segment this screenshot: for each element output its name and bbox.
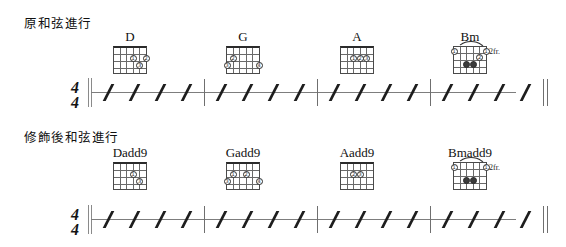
- chord-dot: 2: [230, 55, 237, 62]
- fret-position-label-bm: 2fr.: [489, 47, 500, 56]
- chord-dot: [470, 177, 477, 184]
- system-embellished: 修飾後和弦進行 Dadd9 1 3 Gadd9 1 2 3: [0, 124, 566, 247]
- chord-dot: 1: [230, 171, 237, 178]
- chord-dot: 3: [224, 62, 231, 69]
- chord-dot: 3: [224, 178, 231, 185]
- staff-original: 4 4: [0, 75, 566, 115]
- start-barline: [88, 205, 89, 234]
- barline: [430, 79, 431, 106]
- time-signature-numerator: 4: [66, 80, 84, 95]
- chord-diagram-a: A 1 2 3: [322, 30, 392, 78]
- fret-position-label-bmadd9: 2fr.: [489, 163, 500, 172]
- chord-dot: 2: [243, 171, 250, 178]
- start-barline: [88, 78, 89, 107]
- chord-dot: 1: [130, 171, 137, 178]
- chord-dot: [470, 61, 477, 68]
- chord-grid-dadd9: 1 3: [113, 162, 147, 190]
- chord-dot: 3: [136, 178, 143, 185]
- time-signature-numerator: 4: [66, 207, 84, 222]
- chord-diagram-d: D 1 2 3: [95, 30, 165, 78]
- chord-dot: 1: [451, 48, 458, 55]
- chord-dot: 4: [256, 62, 263, 69]
- chord-grid-d: 1 2 3: [113, 46, 147, 74]
- time-signature-denominator: 4: [66, 95, 84, 110]
- chord-name-a: A: [322, 30, 392, 44]
- end-barline: [543, 206, 544, 233]
- chord-dot: 1: [350, 55, 357, 62]
- chord-dot: 3: [136, 62, 143, 69]
- staff-line: [91, 92, 516, 93]
- chord-name-g: G: [208, 30, 278, 44]
- barline: [317, 206, 318, 233]
- chord-dot: 4: [256, 178, 263, 185]
- chord-dot: 2: [476, 54, 483, 61]
- barline: [430, 206, 431, 233]
- chord-dot: [463, 61, 470, 68]
- rhythm-slash: [520, 211, 531, 228]
- time-signature-embellished: 4 4: [66, 207, 84, 237]
- staff-line: [91, 219, 516, 220]
- chord-dot: 3: [363, 55, 370, 62]
- section-label-original: 原和弦進行: [24, 13, 92, 32]
- system-original: 原和弦進行 D 1 2 3 G 2 3 4: [0, 0, 566, 123]
- rhythm-slash: [520, 84, 531, 101]
- chord-name-aadd9: Aadd9: [322, 146, 392, 160]
- chord-diagram-bm: Bm 1 1 2 2fr.: [435, 30, 505, 78]
- chord-grid-g: 2 3 4: [226, 46, 260, 74]
- chord-name-d: D: [95, 30, 165, 44]
- chord-diagram-g: G 2 3 4: [208, 30, 278, 78]
- barline: [317, 79, 318, 106]
- chord-grid-bmadd9: 1 1: [453, 162, 487, 190]
- chord-diagram-gadd9: Gadd9 1 2 3 4: [208, 146, 278, 194]
- chord-diagram-bmadd9: Bmadd9 1 1 2fr.: [435, 146, 505, 194]
- chord-name-dadd9: Dadd9: [95, 146, 165, 160]
- chord-grid-a: 1 2 3: [340, 46, 374, 74]
- end-barline: [547, 79, 548, 106]
- section-label-embellished: 修飾後和弦進行: [24, 127, 119, 146]
- chord-grid-bm: 1 1 2: [453, 46, 487, 74]
- chord-dot: 2: [350, 171, 357, 178]
- end-barline: [547, 206, 548, 233]
- chord-name-gadd9: Gadd9: [208, 146, 278, 160]
- chord-dot: 1: [130, 55, 137, 62]
- chord-dot: 2: [143, 55, 150, 62]
- time-signature-denominator: 4: [66, 222, 84, 237]
- time-signature-original: 4 4: [66, 80, 84, 110]
- chord-grid-aadd9: 2 3: [340, 162, 374, 190]
- chord-diagram-dadd9: Dadd9 1 3: [95, 146, 165, 194]
- chord-dot: 3: [357, 171, 364, 178]
- barline: [204, 79, 205, 106]
- chord-grid-gadd9: 1 2 3 4: [226, 162, 260, 190]
- chord-dot: [463, 177, 470, 184]
- chord-dot: 1: [451, 164, 458, 171]
- staff-embellished: 4 4: [0, 202, 566, 242]
- chord-diagram-aadd9: Aadd9 2 3: [322, 146, 392, 194]
- barline: [204, 206, 205, 233]
- end-barline: [543, 79, 544, 106]
